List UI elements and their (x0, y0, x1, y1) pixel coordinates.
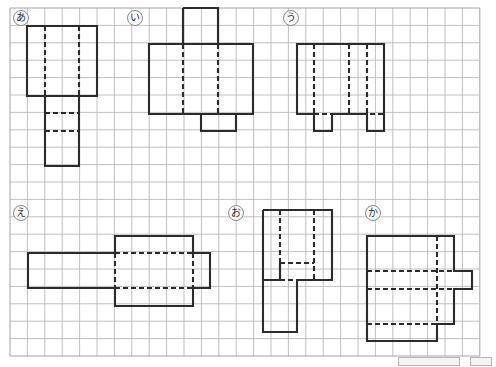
figure-label-i: い (127, 10, 143, 26)
figure-label-u: う (283, 10, 299, 26)
figure-label-text: か (368, 208, 378, 218)
figure-label-a: あ (13, 10, 29, 26)
figure-label-text: う (286, 13, 296, 23)
figure-e-outline (28, 236, 210, 306)
worksheet-page: あいうえおか (0, 0, 496, 367)
figure-label-text: え (16, 208, 26, 218)
grid-lines (10, 8, 480, 356)
figure-label-text: お (231, 208, 241, 218)
figure-o-outline (263, 210, 332, 332)
figure-label-e: え (13, 205, 29, 221)
figure-label-text: い (130, 13, 140, 23)
figure-o (263, 210, 332, 332)
figure-i-outline (183, 8, 218, 44)
footer-bar-1 (398, 357, 460, 366)
figure-label-ka: か (365, 205, 381, 221)
figure-e (28, 236, 210, 306)
grid-canvas (0, 0, 496, 367)
figure-label-text: あ (16, 13, 26, 23)
footer-bar-2 (470, 357, 492, 366)
figure-label-o: お (228, 205, 244, 221)
